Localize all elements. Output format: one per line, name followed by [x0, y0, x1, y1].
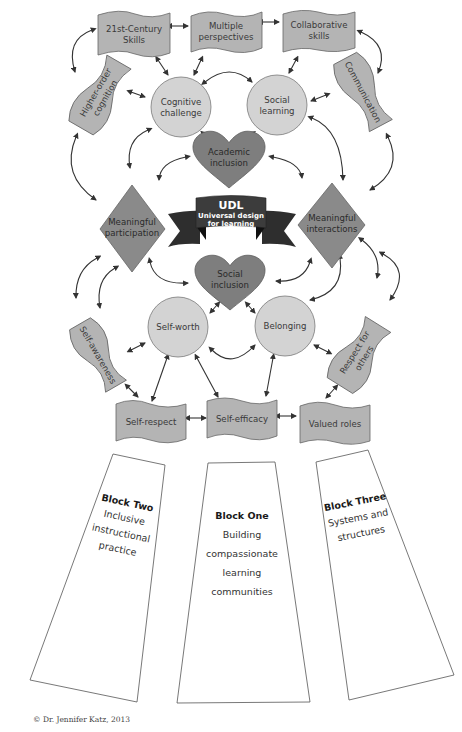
svg-text:Block One: Block One [215, 510, 269, 521]
svg-text:Meaningful: Meaningful [108, 217, 156, 227]
svg-text:Universal design: Universal design [198, 212, 264, 220]
banner-communication: Communication [329, 50, 396, 134]
diamond-meaningful-participation: Meaningful participation [100, 185, 165, 272]
svg-text:Self-respect: Self-respect [126, 417, 177, 427]
svg-text:for learning: for learning [208, 220, 254, 228]
diamond-meaningful-interactions: Meaningful interactions [298, 183, 365, 268]
svg-text:challenge: challenge [160, 108, 202, 118]
svg-text:learning: learning [259, 106, 294, 116]
banner-self-efficacy: Self-efficacy [207, 398, 277, 440]
udl-ribbon: UDL Universal design for learning [168, 196, 296, 248]
udl-framework-diagram: 21st-Century Skills Multiple perspective… [0, 0, 462, 732]
svg-text:Academic: Academic [208, 147, 250, 157]
svg-text:communities: communities [211, 586, 272, 597]
copyright-credit: © Dr. Jennifer Katz, 2013 [33, 715, 130, 724]
banner-valued-roles: Valued roles [300, 402, 370, 444]
svg-text:Valued roles: Valued roles [309, 419, 362, 429]
svg-text:participation: participation [105, 228, 159, 238]
svg-text:Cognitive: Cognitive [161, 97, 202, 107]
circle-self-worth: Self-worth [148, 297, 208, 357]
svg-text:inclusion: inclusion [211, 280, 249, 290]
svg-text:Multiple: Multiple [209, 21, 243, 31]
block-two: Block Two Inclusive instructional practi… [30, 454, 165, 702]
svg-text:compassionate: compassionate [206, 548, 278, 559]
svg-text:interactions: interactions [307, 224, 358, 234]
svg-text:learning: learning [223, 567, 262, 578]
svg-text:perspectives: perspectives [199, 32, 254, 42]
heart-academic-inclusion: Academic inclusion [193, 131, 265, 188]
heart-social-inclusion: Social inclusion [195, 255, 265, 310]
svg-text:UDL: UDL [218, 199, 243, 212]
svg-text:Social: Social [264, 95, 289, 105]
svg-text:21st-Century: 21st-Century [106, 24, 162, 34]
banner-respect-for-others: Respect for others [323, 314, 395, 396]
svg-text:Belonging: Belonging [263, 321, 306, 331]
banner-21st-century-skills: 21st-Century Skills [98, 11, 170, 57]
svg-text:Skills: Skills [123, 35, 146, 45]
svg-text:Building: Building [223, 529, 262, 540]
svg-text:Meaningful: Meaningful [308, 213, 356, 223]
svg-text:Self-efficacy: Self-efficacy [216, 414, 268, 424]
svg-text:inclusion: inclusion [210, 158, 248, 168]
banner-self-respect: Self-respect [116, 401, 186, 443]
svg-text:skills: skills [308, 31, 330, 41]
banner-self-awareness: Self-awareness [65, 315, 130, 394]
block-one: Block One Building compassionate learnin… [177, 462, 310, 703]
banner-collaborative-skills: Collaborative skills [283, 10, 355, 52]
circle-belonging: Belonging [255, 296, 315, 356]
circle-cognitive-challenge: Cognitive challenge [151, 77, 211, 137]
banner-multiple-perspectives: Multiple perspectives [191, 12, 262, 53]
banner-higher-order-cognition: Higher-order cognition [65, 53, 136, 138]
block-three: Block Three Systems and structures [316, 450, 454, 700]
svg-text:Self-worth: Self-worth [156, 322, 199, 332]
svg-text:Collaborative: Collaborative [291, 20, 348, 30]
svg-text:Social: Social [217, 269, 242, 279]
circle-social-learning: Social learning [247, 75, 307, 135]
